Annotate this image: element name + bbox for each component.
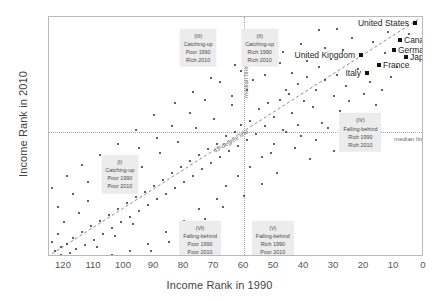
region-annotation-line: Falling-behind (344, 124, 378, 132)
data-point (264, 74, 266, 76)
data-point (156, 198, 158, 200)
data-point (372, 41, 374, 43)
data-point (138, 147, 140, 149)
data-point (195, 127, 197, 129)
region-annotation-i: (I)Catching-upPoor 1990Poor 2010 (101, 155, 138, 193)
data-point (312, 106, 314, 108)
data-point (219, 81, 221, 83)
highlighted-data-point (365, 71, 369, 75)
region-annotation-line: Rich 1990 (245, 48, 274, 56)
data-point (198, 154, 200, 156)
data-point (207, 148, 209, 150)
data-point (351, 37, 353, 39)
region-annotation-line: Rich 2010 (245, 56, 274, 64)
region-annotation-line: (III) (184, 32, 213, 40)
data-point (51, 241, 53, 243)
data-point (225, 135, 227, 137)
median-line-horizontal-label: median line (394, 135, 422, 142)
data-point (303, 100, 305, 102)
data-point (171, 125, 173, 127)
data-point (114, 235, 116, 237)
region-annotation-line: Poor 2010 (183, 248, 217, 255)
data-point (318, 29, 320, 31)
data-point (198, 208, 200, 210)
highlighted-data-point (377, 63, 381, 67)
data-point (66, 175, 68, 177)
data-point (279, 62, 281, 64)
data-point (270, 152, 272, 154)
country-label: Canada (404, 35, 422, 45)
highlighted-data-point (398, 38, 402, 42)
data-point (168, 241, 170, 243)
data-point (138, 210, 140, 212)
region-annotation-line: (VI) (183, 223, 217, 231)
data-point (246, 139, 248, 141)
country-label: United States (358, 18, 409, 28)
data-point (72, 237, 74, 239)
region-annotation-line: (I) (105, 158, 134, 166)
data-point (54, 250, 56, 252)
highlighted-data-point (359, 53, 363, 57)
data-point (252, 79, 254, 81)
data-point (222, 206, 224, 208)
data-point (126, 202, 128, 204)
data-point (174, 187, 176, 189)
data-point (273, 143, 275, 145)
country-label: United Kingdom (295, 50, 355, 60)
data-point (321, 122, 323, 124)
region-annotation-ii: (II)Catching-upRich 1990Rich 2010 (241, 29, 278, 67)
data-point (120, 221, 122, 223)
data-point (225, 185, 227, 187)
data-point (159, 152, 161, 154)
data-point (387, 31, 389, 33)
region-annotation-line: (V) (256, 223, 290, 231)
scatter-chart-figure: Income Rank in 2010 Income Rank in 1990 … (0, 0, 439, 301)
data-point (132, 223, 134, 225)
data-point (75, 248, 77, 250)
data-point (165, 231, 167, 233)
data-point (300, 43, 302, 45)
data-point (285, 89, 287, 91)
data-point (78, 212, 80, 214)
data-point (327, 127, 329, 129)
data-point (171, 172, 173, 174)
highlighted-data-point (413, 21, 417, 25)
data-point (324, 47, 326, 49)
data-point (189, 160, 191, 162)
data-point (231, 104, 233, 106)
data-point (213, 118, 215, 120)
country-label: France (383, 60, 409, 70)
data-point (384, 52, 386, 54)
region-annotation-vi: (VI)Falling-behindPoor 1990Poor 2010 (179, 220, 221, 255)
data-point (291, 112, 293, 114)
data-point (153, 185, 155, 187)
data-point (375, 104, 377, 106)
region-annotation-line: Catching-up (184, 40, 213, 48)
data-point (249, 166, 251, 168)
x-axis-tick-label: 0 (403, 259, 439, 270)
region-annotation-line: Poor 2010 (256, 248, 290, 255)
region-annotation-line: Catching-up (105, 166, 134, 174)
data-point (315, 89, 317, 91)
region-annotation-line: Rich 2010 (344, 141, 378, 149)
data-point (243, 195, 245, 197)
data-point (300, 135, 302, 137)
region-annotation-line: Rich 1990 (344, 132, 378, 140)
country-label: Italy (345, 68, 361, 78)
region-annotation-line: Poor 1990 (184, 48, 213, 56)
region-annotation-line: Poor 1990 (183, 240, 217, 248)
data-point (369, 81, 371, 83)
data-point (153, 114, 155, 116)
data-point (111, 254, 113, 255)
data-point (93, 239, 95, 241)
data-point (60, 246, 62, 248)
country-label: Japan (410, 52, 422, 62)
data-point (297, 124, 299, 126)
data-point (333, 95, 335, 97)
data-point (96, 246, 98, 248)
data-point (90, 225, 92, 227)
highlighted-data-point (392, 48, 396, 52)
data-point (339, 110, 341, 112)
data-point (117, 143, 119, 145)
data-point (147, 243, 149, 245)
